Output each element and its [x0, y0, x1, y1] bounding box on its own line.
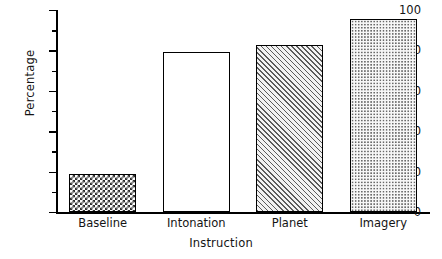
- y-tick-label: 100: [399, 3, 421, 17]
- bar-planet: [256, 45, 323, 212]
- x-axis-line: [56, 212, 430, 214]
- bar-intonation: [163, 52, 230, 212]
- y-tick-minor: [52, 111, 57, 112]
- y-tick-major: [49, 131, 56, 132]
- x-category-label: Baseline: [78, 216, 127, 230]
- bar-baseline: [69, 174, 136, 212]
- y-tick-minor: [52, 151, 57, 152]
- x-category-label: Intonation: [167, 216, 226, 230]
- y-tick-minor: [52, 30, 57, 31]
- y-tick-major: [49, 91, 56, 92]
- x-category-label: Planet: [272, 216, 308, 230]
- y-tick-minor: [52, 71, 57, 72]
- bar-chart: Percentage Instruction 020406080100 Base…: [0, 0, 442, 259]
- y-tick-major: [49, 10, 56, 11]
- y-tick-major: [49, 50, 56, 51]
- plot-area: 020406080100 BaselineIntonationPlanetIma…: [56, 10, 430, 212]
- y-axis-label: Percentage: [23, 35, 37, 131]
- y-tick-major: [49, 172, 56, 173]
- y-tick-minor: [52, 192, 57, 193]
- y-tick-major: [49, 212, 56, 213]
- x-category-label: Imagery: [359, 216, 407, 230]
- x-axis-label: Instruction: [0, 236, 442, 250]
- y-axis-line: [56, 10, 58, 212]
- bar-imagery: [350, 19, 417, 212]
